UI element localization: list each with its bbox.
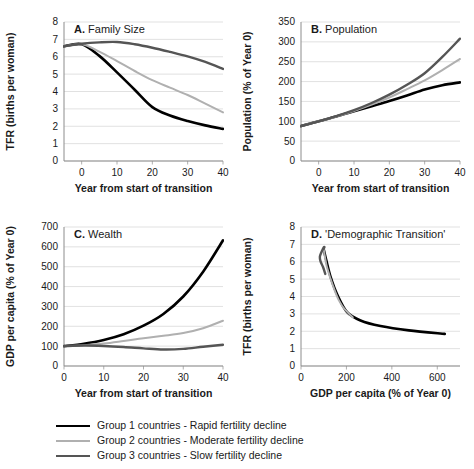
svg-text:600: 600	[429, 372, 446, 383]
panel-b-population: 050100150200250300350010203040B. Populat…	[237, 4, 474, 209]
svg-text:Year from start of transition: Year from start of transition	[75, 182, 213, 194]
svg-text:Year from start of transition: Year from start of transition	[312, 182, 450, 194]
svg-text:350: 350	[278, 16, 295, 27]
svg-text:TFR (births per woman): TFR (births per woman)	[241, 238, 253, 356]
legend-item: Group 1 countries - Rapid fertility decl…	[56, 418, 396, 433]
svg-text:2: 2	[289, 326, 295, 337]
svg-text:200: 200	[278, 76, 295, 87]
svg-text:3: 3	[52, 103, 58, 114]
svg-text:5: 5	[289, 274, 295, 285]
svg-text:4: 4	[52, 86, 58, 97]
svg-text:Year from start of transition: Year from start of transition	[75, 387, 213, 399]
svg-text:0: 0	[289, 155, 295, 166]
svg-text:40: 40	[454, 167, 466, 178]
legend-item: Group 2 countries - Moderate fertility d…	[56, 433, 396, 448]
svg-text:10: 10	[348, 167, 360, 178]
svg-text:GDP per capita (% of Year 0): GDP per capita (% of Year 0)	[4, 226, 16, 367]
svg-text:0: 0	[52, 155, 58, 166]
svg-text:7: 7	[52, 34, 58, 45]
svg-text:6: 6	[289, 256, 295, 267]
legend-label-group-3: Group 3 countries - Slow fertility decli…	[97, 450, 282, 461]
svg-text:40: 40	[217, 372, 229, 383]
figure-demographic-transition: 012345678010203040A. Family SizeYear fro…	[0, 0, 474, 469]
svg-text:B. Population: B. Population	[311, 23, 377, 35]
svg-text:200: 200	[338, 372, 355, 383]
svg-text:50: 50	[284, 136, 296, 147]
svg-text:6: 6	[52, 51, 58, 62]
svg-text:1: 1	[289, 343, 295, 354]
svg-text:500: 500	[41, 261, 58, 272]
svg-text:20: 20	[384, 167, 396, 178]
legend-label-group-2: Group 2 countries - Moderate fertility d…	[97, 435, 304, 446]
panel-a-family-size: 012345678010203040A. Family SizeYear fro…	[0, 4, 237, 209]
svg-text:200: 200	[41, 321, 58, 332]
svg-text:10: 10	[111, 167, 123, 178]
svg-text:30: 30	[419, 167, 431, 178]
panel-c-wealth: 0100200300400500600700010203040C. Wealth…	[0, 209, 237, 414]
svg-text:300: 300	[278, 36, 295, 47]
svg-text:0: 0	[289, 360, 295, 371]
svg-text:700: 700	[41, 221, 58, 232]
svg-text:20: 20	[147, 167, 159, 178]
svg-text:0: 0	[316, 167, 322, 178]
svg-text:GDP per capita (% of Year 0): GDP per capita (% of Year 0)	[310, 387, 451, 399]
svg-text:7: 7	[289, 239, 295, 250]
panel-d-demographic-transition: 0123456780200400600D. 'Demographic Trans…	[237, 209, 474, 414]
svg-text:400: 400	[41, 281, 58, 292]
svg-text:D. 'Demographic Transition': D. 'Demographic Transition'	[311, 228, 445, 240]
svg-text:2: 2	[52, 121, 58, 132]
svg-text:8: 8	[289, 221, 295, 232]
legend: Group 1 countries - Rapid fertility decl…	[56, 418, 396, 463]
svg-text:C. Wealth: C. Wealth	[74, 228, 122, 240]
svg-text:0: 0	[79, 167, 85, 178]
svg-text:20: 20	[138, 372, 150, 383]
legend-swatch-group-2	[56, 440, 90, 442]
svg-text:1: 1	[52, 138, 58, 149]
svg-text:0: 0	[298, 372, 304, 383]
svg-text:30: 30	[182, 167, 194, 178]
svg-text:40: 40	[217, 167, 229, 178]
svg-text:100: 100	[278, 116, 295, 127]
svg-text:600: 600	[41, 241, 58, 252]
svg-text:150: 150	[278, 96, 295, 107]
svg-text:10: 10	[98, 372, 110, 383]
svg-text:100: 100	[41, 341, 58, 352]
legend-item: Group 3 countries - Slow fertility decli…	[56, 448, 396, 463]
legend-swatch-group-3	[56, 455, 90, 457]
svg-text:0: 0	[61, 372, 67, 383]
svg-text:0: 0	[52, 360, 58, 371]
svg-text:5: 5	[52, 69, 58, 80]
svg-text:300: 300	[41, 301, 58, 312]
legend-label-group-1: Group 1 countries - Rapid fertility decl…	[97, 420, 287, 431]
svg-text:TFR (births per woman): TFR (births per woman)	[4, 33, 16, 151]
svg-text:8: 8	[52, 16, 58, 27]
legend-swatch-group-1	[56, 425, 90, 427]
svg-text:3: 3	[289, 308, 295, 319]
svg-text:250: 250	[278, 56, 295, 67]
svg-text:A. Family Size: A. Family Size	[74, 23, 145, 35]
svg-text:Population (% of Year 0): Population (% of Year 0)	[241, 32, 253, 152]
svg-text:4: 4	[289, 291, 295, 302]
svg-text:400: 400	[384, 372, 401, 383]
svg-text:30: 30	[178, 372, 190, 383]
